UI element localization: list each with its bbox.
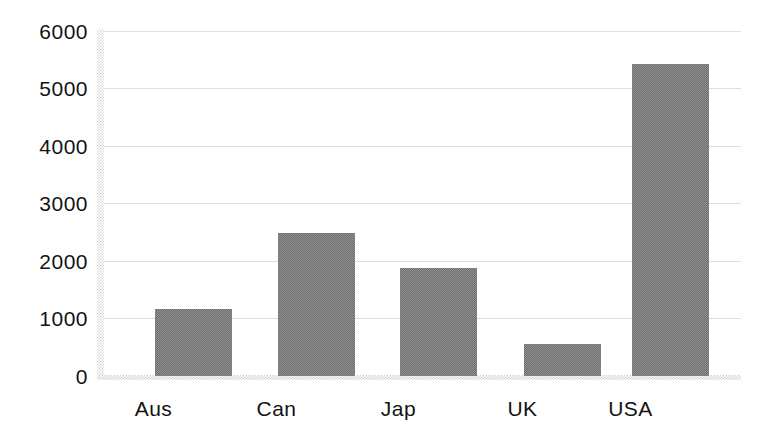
bars-layer: [97, 31, 741, 376]
y-tick-label-0: 0: [0, 366, 88, 387]
x-tick-label-usa: USA: [592, 398, 669, 419]
bar-jap: [400, 268, 477, 376]
y-tick-label-4000: 4000: [0, 136, 88, 157]
y-tick-label-3000: 3000: [0, 193, 88, 214]
y-tick-label-5000: 5000: [0, 78, 88, 99]
y-tick-label-1000: 1000: [0, 308, 88, 329]
y-tick-label-6000: 6000: [0, 21, 88, 42]
bar-uk: [524, 344, 601, 376]
bar-can: [278, 233, 355, 376]
bar-usa: [632, 64, 709, 376]
y-tick-label-2000: 2000: [0, 251, 88, 272]
x-tick-label-can: Can: [238, 398, 315, 419]
bar-chart: 6000 5000 4000 3000 2000 1000 0 Aus Can …: [0, 0, 774, 442]
bar-aus: [155, 309, 232, 376]
x-tick-label-aus: Aus: [115, 398, 192, 419]
x-tick-label-uk: UK: [484, 398, 561, 419]
x-tick-label-jap: Jap: [360, 398, 437, 419]
